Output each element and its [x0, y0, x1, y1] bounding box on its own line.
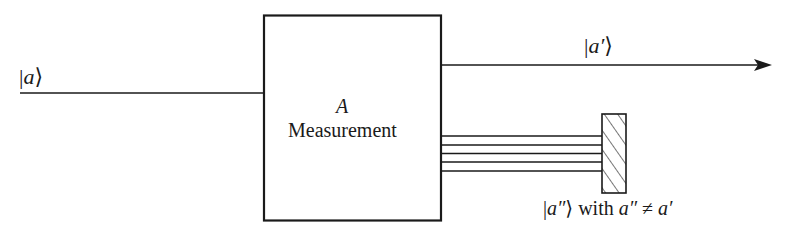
ket-close: ⟩: [565, 197, 573, 219]
ket-symbol: a″: [547, 197, 565, 219]
output-state-label: |a′⟩: [584, 35, 613, 57]
condition-word: with: [578, 197, 614, 219]
measurement-diagram: |a⟩ |a′⟩ A Measurement |a″⟩ with a″ ≠ a′: [0, 0, 788, 235]
measurement-apparatus-box: [264, 16, 441, 221]
rejected-states-label: |a″⟩ with a″ ≠ a′: [543, 198, 672, 218]
device-label: Measurement: [288, 120, 397, 140]
rejected-beams: [441, 136, 602, 171]
ket-close: ⟩: [34, 64, 43, 89]
ket-symbol: a′: [588, 33, 604, 58]
ket-close: ⟩: [604, 33, 613, 58]
condition-rhs: a′: [658, 197, 672, 219]
operator-label: A: [336, 96, 348, 116]
condition-lhs: a″: [619, 197, 637, 219]
input-state-label: |a⟩: [19, 66, 43, 88]
condition-operator: ≠: [642, 197, 653, 219]
beam-stop-blocker: [602, 114, 626, 193]
ket-symbol: a: [23, 64, 34, 89]
